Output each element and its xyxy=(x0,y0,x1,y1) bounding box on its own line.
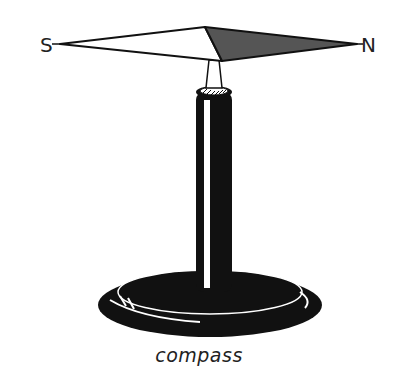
south-label: S xyxy=(40,33,53,57)
compass-column xyxy=(196,86,232,292)
compass-illustration xyxy=(0,0,398,377)
compass-needle xyxy=(52,27,363,61)
north-label: N xyxy=(361,33,376,57)
needle-north-half xyxy=(205,27,357,61)
figure-caption: compass xyxy=(0,344,398,366)
pivot-pin xyxy=(206,60,222,88)
needle-south-half xyxy=(60,27,222,61)
